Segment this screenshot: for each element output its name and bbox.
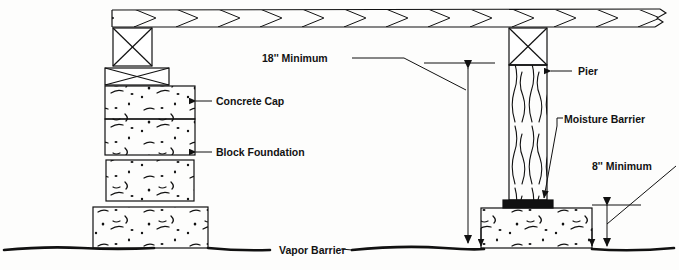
- label-block-foundation: Block Foundation: [216, 146, 305, 158]
- dimension-8-inch: [592, 205, 641, 246]
- block-foundation-lower: [106, 160, 194, 201]
- left-footing: [93, 207, 208, 248]
- label-concrete-cap: Concrete Cap: [216, 95, 284, 107]
- label-vapor-barrier: Vapor Barrier: [279, 244, 346, 256]
- leader-moisture-barrier-bracket: [557, 118, 563, 126]
- block-foundation-upper: [105, 119, 195, 155]
- label-pier: Pier: [578, 65, 598, 77]
- label-moisture-barrier: Moisture Barrier: [564, 113, 645, 125]
- label-18-minimum: 18'' Minimum: [262, 52, 328, 64]
- right-pier-shaft: [509, 65, 547, 200]
- left-shim-block: [105, 68, 169, 85]
- right-footing: [481, 208, 592, 248]
- left-wood-post: [113, 28, 152, 66]
- foundation-detail-diagram: 18'' Minimum Concrete Cap Block Foundati…: [0, 0, 679, 270]
- leader-8-inch: [607, 166, 676, 224]
- right-pier-cap: [509, 28, 547, 65]
- label-8-minimum: 8'' Minimum: [592, 160, 652, 172]
- moisture-barrier-pad: [503, 200, 553, 208]
- diagram-canvas: 18'' Minimum Concrete Cap Block Foundati…: [0, 0, 679, 270]
- concrete-cap-block: [105, 86, 195, 119]
- floor-girder: [112, 9, 666, 27]
